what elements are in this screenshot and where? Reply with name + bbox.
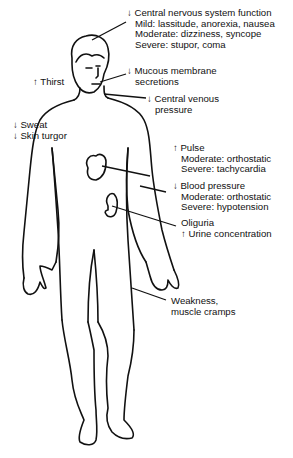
head-outline — [72, 35, 109, 93]
label-sweat-skin-turgor: ↓ Sweat ↓ Skin turgor — [13, 120, 67, 141]
up-arrow-icon: ↑ — [33, 76, 38, 87]
label-thirst: ↑ Thirst — [33, 77, 64, 88]
label-blood-pressure: ↓ Blood pressure Moderate: orthostatic S… — [173, 181, 271, 213]
label-central-venous-pressure: ↓ Central venous pressure — [147, 94, 219, 115]
kidney-icon — [105, 194, 117, 217]
label-weakness: Weakness, muscle cramps — [171, 296, 236, 317]
down-arrow-icon: ↓ — [127, 65, 132, 76]
up-arrow-icon: ↑ — [181, 228, 186, 239]
label-mucous-membrane: ↓ Mucous membrane secretions — [127, 66, 217, 87]
label-oliguria: Oliguria ↑ Urine concentration — [181, 218, 272, 239]
down-arrow-icon: ↓ — [147, 93, 152, 104]
label-pulse: ↑ Pulse Moderate: orthostatic Severe: ta… — [173, 143, 271, 175]
hairline — [76, 54, 104, 62]
down-arrow-icon: ↓ — [173, 180, 178, 191]
up-arrow-icon: ↑ — [173, 142, 178, 153]
down-arrow-icon: ↓ — [127, 7, 132, 18]
label-central-nervous-system: ↓ Central nervous system function Mild: … — [127, 8, 275, 50]
down-arrow-icon: ↓ — [13, 130, 18, 141]
heart-icon — [87, 154, 106, 180]
down-arrow-icon: ↓ — [13, 119, 18, 130]
torso-right — [108, 98, 174, 270]
